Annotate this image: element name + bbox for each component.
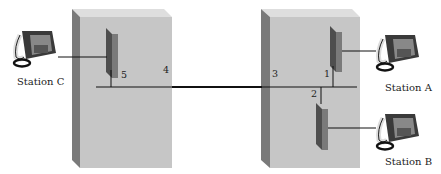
panel-b [316, 103, 328, 150]
left-building [72, 9, 172, 168]
point-1-label: 1 [324, 68, 330, 79]
phone-icon-station-b [377, 114, 419, 150]
station-b-label: Station B [385, 156, 432, 167]
panel-c [106, 28, 118, 78]
point-5-label: 5 [121, 69, 127, 80]
phone-icon-station-a [377, 35, 419, 71]
station-a-label: Station A [385, 82, 432, 93]
panel-a [330, 26, 342, 72]
point-3-label: 3 [272, 68, 278, 79]
phone-icon-station-c [14, 31, 56, 67]
station-c-label: Station C [17, 76, 64, 87]
point-4-label: 4 [163, 64, 169, 75]
diagram-drawing [0, 0, 441, 174]
point-2-label: 2 [311, 88, 317, 99]
diagram-canvas: Station C Station A Station B 5 4 3 1 2 [0, 0, 441, 174]
